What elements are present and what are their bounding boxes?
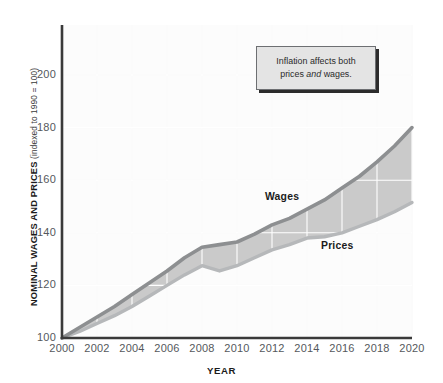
series-label-wages: Wages <box>265 191 299 202</box>
x-tick-label: 2004 <box>112 342 152 354</box>
x-tick-label: 2014 <box>287 342 327 354</box>
x-tick-label: 2010 <box>217 342 257 354</box>
y-tick-label: 120 <box>22 278 56 290</box>
callout-line-1: Inflation affects both <box>276 56 355 66</box>
y-tick-label: 200 <box>22 68 56 80</box>
y-tick-label: 160 <box>22 173 56 185</box>
x-tick-label: 2018 <box>357 342 397 354</box>
series-label-prices: Prices <box>321 240 353 251</box>
y-tick-label: 180 <box>22 121 56 133</box>
x-tick-label: 2012 <box>252 342 292 354</box>
x-tick-label: 2000 <box>42 342 82 354</box>
chart-figure: 100120140160180200 200020022004200620082… <box>0 0 443 383</box>
x-tick-label: 2006 <box>147 342 187 354</box>
wages-prices-area-chart <box>0 0 443 383</box>
x-tick-label: 2002 <box>77 342 117 354</box>
x-tick-label: 2016 <box>322 342 362 354</box>
x-tick-label: 2020 <box>392 342 432 354</box>
callout-line-2-suffix: wages. <box>321 69 352 79</box>
callout-annotation: Inflation affects both prices and wages. <box>256 46 376 90</box>
x-axis-title: YEAR <box>0 365 443 376</box>
x-tick-label: 2008 <box>182 342 222 354</box>
callout-line-2-prefix: prices <box>280 69 306 79</box>
y-tick-label: 140 <box>22 226 56 238</box>
callout-line-2-emphasis: and <box>306 69 321 79</box>
